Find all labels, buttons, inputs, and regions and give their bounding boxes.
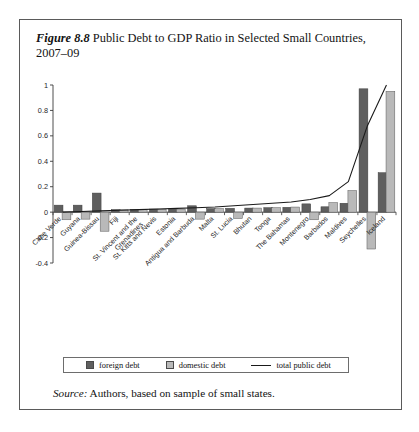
y-axis-tick-label: 0.2 (38, 182, 48, 191)
legend-item-domestic-debt: domestic debt (166, 361, 226, 370)
bar-foreign-debt (92, 193, 101, 212)
y-axis-tick-label: 0 (44, 208, 48, 217)
bar-foreign-debt (302, 204, 311, 212)
legend-item-foreign-debt: foreign debt (86, 361, 140, 370)
y-axis-tick-label: -0.4 (35, 259, 48, 268)
bar-foreign-debt (226, 208, 235, 212)
bar-foreign-debt (359, 89, 368, 212)
chart-svg: -0.4-0.200.20.40.60.81Cape VerdeGuyanaGu… (20, 20, 403, 411)
bar-domestic-debt (176, 209, 185, 212)
bar-foreign-debt (283, 207, 292, 212)
source-label: Source: (53, 387, 87, 399)
y-axis-tick-label: 0.4 (38, 157, 48, 166)
y-axis-tick-label: 1 (44, 81, 48, 90)
bar-foreign-debt (321, 207, 330, 212)
bar-foreign-debt (188, 206, 197, 212)
bar-foreign-debt (169, 209, 178, 212)
legend-item-total-public-debt: total public debt (251, 361, 330, 370)
bar-foreign-debt (54, 205, 63, 212)
bar-domestic-debt (272, 208, 281, 212)
legend-label-domestic-debt: domestic debt (179, 361, 226, 370)
bar-domestic-debt (386, 91, 395, 212)
chart-legend: foreign debt domestic debt total public … (63, 357, 349, 373)
x-axis-category-label: Cape Verde (31, 215, 63, 247)
bar-domestic-debt (234, 212, 243, 218)
bar-domestic-debt (62, 212, 71, 220)
bar-foreign-debt (340, 203, 349, 212)
legend-line-total-icon (251, 365, 271, 366)
figure-container: Figure 8.8 Public Debt to GDP Ratio in S… (19, 19, 402, 410)
legend-swatch-domestic-icon (166, 361, 174, 369)
bar-domestic-debt (157, 209, 166, 212)
bar-domestic-debt (253, 208, 262, 212)
y-axis-tick-label: 0.8 (38, 106, 48, 115)
bar-domestic-debt (215, 209, 224, 213)
line-total-public-debt (63, 85, 387, 212)
bar-domestic-debt (291, 207, 300, 212)
bar-foreign-debt (378, 173, 387, 212)
bar-domestic-debt (310, 212, 319, 220)
chart-plot-area: -0.4-0.200.20.40.60.81Cape VerdeGuyanaGu… (20, 20, 403, 411)
legend-label-total-public-debt: total public debt (276, 361, 330, 370)
bar-domestic-debt (348, 191, 357, 213)
source-note: Source: Authors, based on sample of smal… (53, 387, 275, 399)
legend-swatch-foreign-icon (86, 361, 94, 369)
bar-foreign-debt (264, 208, 273, 212)
bar-domestic-debt (195, 212, 204, 219)
bar-foreign-debt (245, 208, 254, 212)
bar-domestic-debt (329, 203, 338, 213)
x-axis-category-label: Fiji (108, 215, 120, 227)
y-axis-tick-label: 0.6 (38, 131, 48, 140)
source-text: Authors, based on sample of small states… (87, 387, 274, 399)
bar-domestic-debt (81, 212, 90, 219)
legend-label-foreign-debt: foreign debt (99, 361, 140, 370)
bar-foreign-debt (207, 209, 216, 213)
